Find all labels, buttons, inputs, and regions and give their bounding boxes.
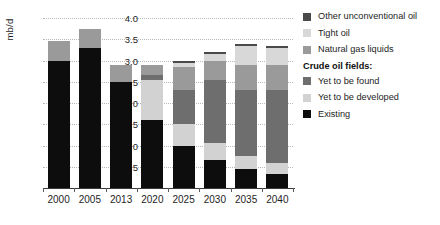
- chart-figure: mb/d Other unconventional oil Tight oil …: [0, 0, 440, 225]
- chart-legend: Other unconventional oil Tight oil Natur…: [303, 10, 438, 124]
- x-axis-tick-mark: [199, 188, 200, 192]
- bar-segment: [204, 143, 226, 160]
- bar-segment: [204, 160, 226, 188]
- bar-segment: [204, 80, 226, 144]
- y-axis-tick-label: 4.0: [112, 13, 138, 24]
- bar-2013: [110, 65, 132, 188]
- legend-label: Tight oil: [318, 28, 350, 39]
- legend-item-tight-oil: Tight oil: [303, 27, 438, 40]
- y-axis-label: mb/d: [4, 27, 15, 41]
- x-axis-tick-mark: [293, 188, 294, 192]
- bar-segment: [110, 82, 132, 188]
- legend-swatch: [303, 94, 311, 102]
- legend-label: Yet to be found: [318, 76, 379, 87]
- bar-2035: [235, 44, 257, 189]
- bar-segment: [266, 65, 288, 91]
- legend-swatch: [303, 13, 311, 21]
- bar-segment: [266, 163, 288, 174]
- bar-2030: [204, 52, 226, 188]
- bar-segment: [173, 124, 195, 145]
- legend-item-yet-to-be-developed: Yet to be developed: [303, 91, 438, 104]
- legend-label: Other unconventional oil: [318, 11, 417, 22]
- legend-label: Existing: [318, 109, 350, 120]
- bar-segment: [173, 67, 195, 90]
- legend-label: Natural gas liquids: [318, 44, 394, 55]
- x-axis-tick-mark: [168, 188, 169, 192]
- y-axis-tick-label: 3.5: [112, 34, 138, 45]
- legend-swatch: [303, 46, 311, 54]
- bar-2025: [173, 61, 195, 189]
- x-axis-tick-label: 2040: [257, 194, 297, 205]
- gridline: [43, 18, 293, 19]
- legend-swatch: [303, 77, 311, 85]
- bar-segment: [235, 65, 257, 91]
- bar-segment: [266, 174, 288, 188]
- legend-swatch: [303, 110, 311, 118]
- bar-segment: [266, 90, 288, 162]
- legend-swatch: [303, 29, 311, 37]
- bar-segment: [48, 41, 70, 60]
- x-axis-tick-mark: [74, 188, 75, 192]
- legend-item-yet-to-be-found: Yet to be found: [303, 75, 438, 88]
- legend-item-other-unconventional-oil: Other unconventional oil: [303, 10, 438, 23]
- bar-2000: [48, 41, 70, 188]
- x-axis-tick-mark: [106, 188, 107, 192]
- x-axis-tick-mark: [231, 188, 232, 192]
- bar-segment: [141, 80, 163, 120]
- bar-segment: [141, 120, 163, 188]
- bar-segment: [79, 29, 101, 48]
- bar-segment: [235, 156, 257, 169]
- bar-segment: [235, 46, 257, 65]
- legend-label: Yet to be developed: [318, 92, 399, 103]
- bar-2005: [79, 29, 101, 188]
- bar-segment: [173, 146, 195, 189]
- bar-segment: [79, 48, 101, 188]
- bar-2040: [266, 46, 288, 188]
- x-axis-tick-mark: [137, 188, 138, 192]
- legend-item-natural-gas-liquids: Natural gas liquids: [303, 43, 438, 56]
- bar-segment: [173, 90, 195, 124]
- bar-segment: [235, 90, 257, 156]
- bar-2020: [141, 65, 163, 188]
- legend-item-existing: Existing: [303, 108, 438, 121]
- bar-segment: [48, 61, 70, 189]
- x-axis-tick-mark: [262, 188, 263, 192]
- bar-segment: [204, 61, 226, 80]
- bar-segment: [141, 65, 163, 76]
- bar-segment: [110, 65, 132, 82]
- bar-segment: [235, 169, 257, 188]
- bar-segment: [266, 48, 288, 65]
- x-axis-tick-mark: [43, 188, 44, 192]
- x-axis-line: [43, 188, 295, 189]
- legend-group-heading: Crude oil fields:: [303, 61, 438, 71]
